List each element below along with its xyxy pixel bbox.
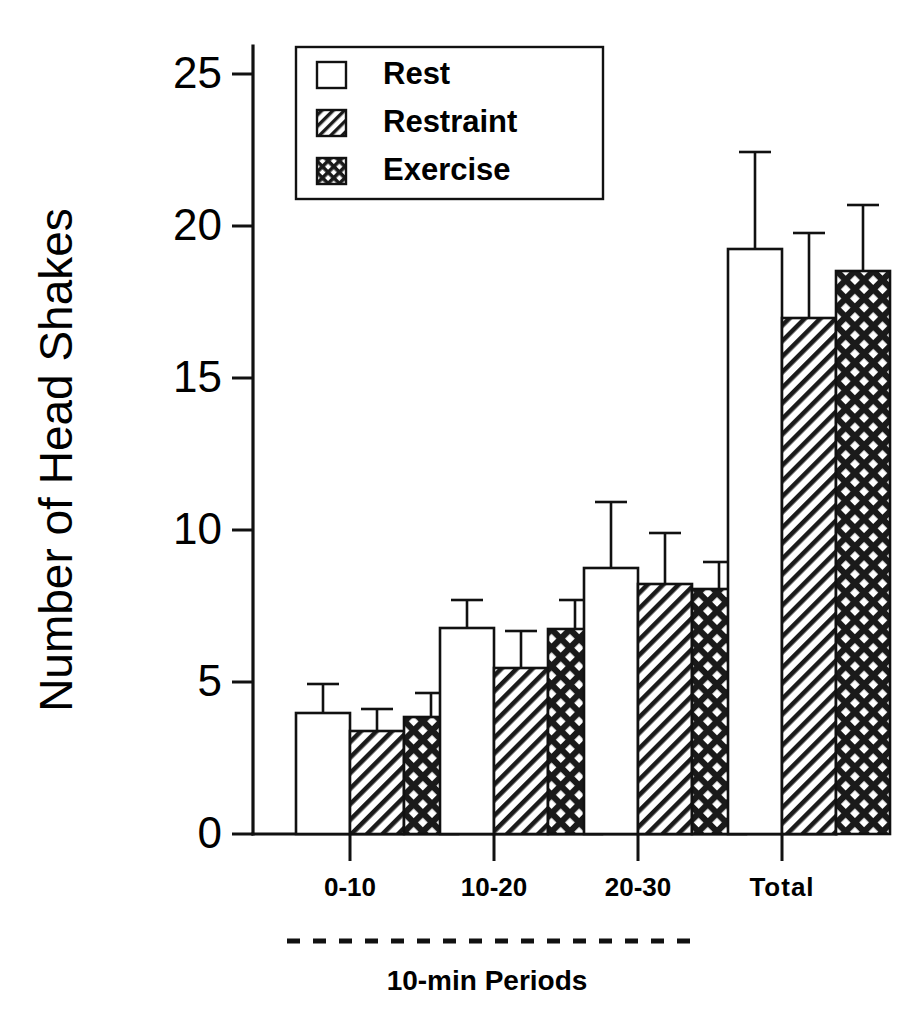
y-tick-label-15: 15 (173, 352, 222, 401)
y-tick-label-25: 25 (173, 48, 222, 97)
errorbar-restraint-0-10 (361, 709, 393, 731)
legend: Rest Restraint Exercise (296, 47, 603, 199)
figure-root: Number of Head Shakes 25 20 15 10 5 0 (0, 0, 899, 1021)
bar-group-0-10 (296, 684, 458, 834)
bar-group-20-30 (584, 502, 746, 834)
legend-label-rest: Rest (383, 56, 450, 91)
bar-restraint-20-30[interactable] (638, 584, 692, 834)
y-tick-label-20: 20 (173, 200, 222, 249)
y-tick-label-0: 0 (198, 808, 222, 857)
bar-group-total (728, 152, 890, 834)
errorbar-exercise-total (847, 205, 879, 271)
errorbar-restraint-10-20 (505, 631, 537, 668)
y-tick-label-10: 10 (173, 504, 222, 553)
x-axis-title-text: 10-min Periods (387, 965, 588, 996)
bar-group-10-20 (440, 600, 602, 834)
bar-restraint-0-10[interactable] (350, 731, 404, 834)
cross-hatch-square-icon (317, 158, 346, 184)
y-axis-ticks: 25 20 15 10 5 0 (173, 48, 253, 857)
x-axis-labels: 0-10 10-20 20-30 Total (324, 872, 815, 902)
errorbar-restraint-20-30 (649, 533, 681, 584)
x-tick-label-20-30: 20-30 (605, 872, 672, 902)
x-axis-ticks (350, 834, 782, 861)
y-axis-title-text: Number of Head Shakes (30, 208, 82, 712)
x-tick-label-10-20: 10-20 (461, 872, 528, 902)
bar-restraint-total[interactable] (782, 318, 836, 834)
errorbar-restraint-total (793, 233, 825, 318)
open-square-icon (317, 62, 346, 88)
bar-rest-10-20[interactable] (440, 628, 494, 834)
y-axis-title: Number of Head Shakes (30, 208, 82, 712)
bar-exercise-total[interactable] (836, 271, 890, 834)
bar-chart: Number of Head Shakes 25 20 15 10 5 0 (0, 0, 899, 1021)
errorbar-rest-10-20 (451, 600, 483, 628)
legend-entry-exercise[interactable]: Exercise (317, 152, 511, 187)
legend-label-exercise: Exercise (383, 152, 511, 187)
errorbar-rest-total (739, 152, 771, 249)
y-tick-label-5: 5 (198, 656, 222, 705)
x-tick-label-total: Total (749, 872, 814, 902)
legend-entry-restraint[interactable]: Restraint (317, 104, 517, 139)
legend-label-restraint: Restraint (383, 104, 517, 139)
bar-rest-total[interactable] (728, 249, 782, 834)
errorbar-rest-0-10 (307, 684, 339, 713)
bar-rest-0-10[interactable] (296, 713, 350, 834)
legend-entry-rest[interactable]: Rest (317, 56, 450, 91)
x-tick-label-0-10: 0-10 (324, 872, 376, 902)
errorbar-rest-20-30 (595, 502, 627, 568)
bar-restraint-10-20[interactable] (494, 668, 548, 834)
bar-rest-20-30[interactable] (584, 568, 638, 834)
diagonal-hatch-square-icon (317, 110, 346, 136)
